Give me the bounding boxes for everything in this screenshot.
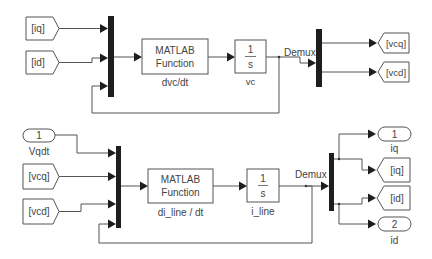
from-block-id[interactable]: [id] bbox=[26, 51, 59, 74]
from-iq-label: [iq] bbox=[31, 23, 45, 34]
goto-iq-label: [iq] bbox=[390, 165, 404, 176]
outport2-name: id bbox=[391, 235, 399, 246]
inport-block-vqdt[interactable]: 1 bbox=[23, 129, 55, 142]
goto-id-label: [id] bbox=[390, 193, 404, 204]
arrow-icon bbox=[368, 166, 376, 175]
arrow-icon bbox=[108, 200, 116, 209]
from-id-label: [id] bbox=[31, 57, 45, 68]
arrow-icon bbox=[368, 220, 376, 229]
fcn-label-line2: Function bbox=[161, 187, 199, 198]
outport-block-id[interactable]: 2 bbox=[378, 217, 411, 231]
goto-block-vcq[interactable]: [vcq] bbox=[378, 33, 409, 53]
demux-bar-2[interactable] bbox=[329, 153, 334, 211]
fcn-name-diline: di_line / dt bbox=[158, 207, 204, 218]
arrow-icon bbox=[321, 182, 329, 191]
matlab-function-block-diline[interactable]: MATLAB Function bbox=[148, 169, 213, 203]
arrow-icon bbox=[227, 53, 235, 62]
matlab-function-block-dvc[interactable]: MATLAB Function bbox=[142, 39, 208, 74]
demux-label-2: Demux bbox=[295, 169, 327, 180]
fcn-label-line2: Function bbox=[156, 58, 194, 69]
integrator-numerator: 1 bbox=[248, 44, 254, 55]
outport-block-iq[interactable]: 1 bbox=[378, 127, 411, 141]
integrator-denominator: s bbox=[248, 59, 253, 70]
arrow-icon bbox=[108, 172, 116, 181]
arrow-icon bbox=[369, 68, 377, 77]
integrator-numerator: 1 bbox=[260, 173, 266, 184]
demux-label-1: Demux bbox=[284, 47, 316, 58]
from-block-vcq[interactable]: [vcq] bbox=[23, 164, 59, 189]
fcn-name-dvc: dvc/dt bbox=[162, 77, 189, 88]
inport-number: 1 bbox=[36, 130, 42, 141]
mux-bar-2[interactable] bbox=[116, 146, 121, 228]
integrator-block-iline[interactable]: 1 s bbox=[247, 169, 279, 202]
goto-block-id[interactable]: [id] bbox=[377, 186, 410, 210]
mux-bar-1[interactable] bbox=[108, 16, 114, 97]
arrow-icon bbox=[134, 53, 142, 62]
fcn-label-line1: MATLAB bbox=[161, 174, 201, 185]
inport-name: Vqdt bbox=[29, 146, 50, 157]
arrow-icon bbox=[108, 149, 116, 158]
arrow-icon bbox=[239, 182, 247, 191]
goto-block-iq[interactable]: [iq] bbox=[377, 158, 410, 182]
fcn-label-line1: MATLAB bbox=[155, 45, 195, 56]
arrow-icon bbox=[308, 59, 316, 68]
outport1-name: iq bbox=[391, 143, 399, 154]
outport1-number: 1 bbox=[392, 129, 398, 140]
simulink-diagram: [iq] [id] MATLAB Function dvc/dt 1 s vc … bbox=[0, 0, 432, 259]
goto-vcq-label: [vcq] bbox=[386, 38, 406, 49]
goto-block-vcd[interactable]: [vcd] bbox=[378, 62, 409, 82]
from-block-vcd[interactable]: [vcd] bbox=[23, 199, 59, 224]
demux-bar-1[interactable] bbox=[316, 29, 322, 87]
arrow-icon bbox=[368, 194, 376, 203]
arrow-icon bbox=[369, 39, 377, 48]
arrow-icon bbox=[100, 82, 108, 91]
arrow-icon bbox=[368, 130, 376, 139]
arrow-icon bbox=[140, 182, 148, 191]
integrator-name-iline: i_line bbox=[251, 206, 275, 217]
branch-point bbox=[278, 56, 281, 59]
from-block-iq[interactable]: [iq] bbox=[26, 17, 59, 40]
branch-point bbox=[338, 158, 340, 160]
integrator-denominator: s bbox=[261, 188, 266, 199]
arrow-icon bbox=[100, 24, 108, 33]
outport2-number: 2 bbox=[392, 219, 398, 230]
from-vcq-label: [vcq] bbox=[28, 171, 49, 182]
goto-vcd-label: [vcd] bbox=[386, 67, 406, 78]
arrow-icon bbox=[108, 220, 116, 229]
integrator-name-vc: vc bbox=[246, 76, 256, 87]
from-vcd-label: [vcd] bbox=[28, 206, 49, 217]
branch-point bbox=[338, 203, 340, 205]
integrator-block-vc[interactable]: 1 s bbox=[235, 40, 266, 73]
arrow-icon bbox=[100, 54, 108, 63]
